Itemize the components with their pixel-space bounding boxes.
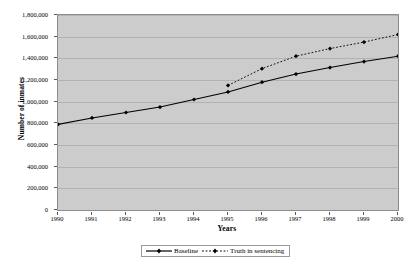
x-axis-tick-mark: [295, 212, 296, 215]
chart-legend: BaselineTruth in sentencing: [141, 245, 290, 257]
line-chart: Number of inmates 0200,000400,000600,000…: [0, 0, 419, 274]
y-axis-tick-label: 1,600,000: [22, 32, 48, 39]
legend-label: Baseline: [174, 247, 198, 255]
x-axis-tick-mark: [397, 212, 398, 215]
data-point-marker: [192, 97, 196, 101]
x-axis-tick-mark: [329, 212, 330, 215]
x-axis-tick-label: 1998: [323, 215, 336, 223]
dotted-line-marker-icon: [202, 247, 228, 255]
x-axis-tick-label: 1997: [289, 215, 302, 223]
x-axis-tick-label: 2000: [391, 215, 404, 223]
y-axis-tick-label: 1,200,000: [22, 76, 48, 83]
x-axis-tick-mark: [159, 212, 160, 215]
data-point-marker: [226, 83, 230, 87]
data-point-marker: [396, 32, 399, 36]
data-point-marker: [226, 90, 230, 94]
y-axis-tick-label: 1,400,000: [22, 54, 48, 61]
data-point-marker: [90, 116, 94, 120]
legend-item-1[interactable]: Baseline: [146, 247, 198, 255]
series-lines: [58, 15, 398, 210]
data-point-marker: [124, 110, 128, 114]
x-axis-tick-label: 1990: [51, 215, 64, 223]
data-point-marker: [57, 122, 60, 126]
x-axis-tick-label: 1994: [187, 215, 200, 223]
x-axis-tick-label: 1996: [255, 215, 268, 223]
data-point-marker: [294, 72, 298, 76]
data-point-marker: [260, 80, 264, 84]
y-axis-tick-labels: 0200,000400,000600,000800,0001,000,0001,…: [0, 0, 53, 274]
x-axis-tick-mark: [363, 212, 364, 215]
x-axis-tick-label: 1995: [221, 215, 234, 223]
data-point-marker: [328, 46, 332, 50]
plot-area: [57, 14, 399, 211]
x-axis-tick-label: 1991: [85, 215, 98, 223]
data-point-marker: [362, 59, 366, 63]
x-axis-tick-label: 1992: [119, 215, 132, 223]
data-point-marker: [362, 40, 366, 44]
x-axis-tick-label: 1999: [357, 215, 370, 223]
y-axis-tick-label: 200,000: [27, 184, 48, 191]
x-axis-tick-mark: [261, 212, 262, 215]
x-axis-tick-mark: [125, 212, 126, 215]
data-point-marker: [294, 54, 298, 58]
y-axis-tick-label: 1,800,000: [22, 11, 48, 18]
x-axis-title: Years: [57, 224, 397, 233]
x-axis-tick-mark: [57, 212, 58, 215]
data-point-marker: [328, 65, 332, 69]
legend-label: Truth in sentencing: [230, 247, 284, 255]
y-axis-tick-label: 400,000: [27, 162, 48, 169]
y-axis-tick-label: 800,000: [27, 119, 48, 126]
y-axis-tick-label: 1,000,000: [22, 97, 48, 104]
legend-item-2[interactable]: Truth in sentencing: [202, 247, 284, 255]
solid-line-marker-icon: [146, 247, 172, 255]
y-axis-tick-label: 600,000: [27, 141, 48, 148]
x-axis-tick-label: 1993: [153, 215, 166, 223]
x-axis-tick-mark: [193, 212, 194, 215]
x-axis-tick-mark: [227, 212, 228, 215]
x-axis-tick-mark: [91, 212, 92, 215]
data-point-marker: [158, 105, 162, 109]
data-point-marker: [260, 67, 264, 71]
data-point-marker: [396, 54, 399, 58]
